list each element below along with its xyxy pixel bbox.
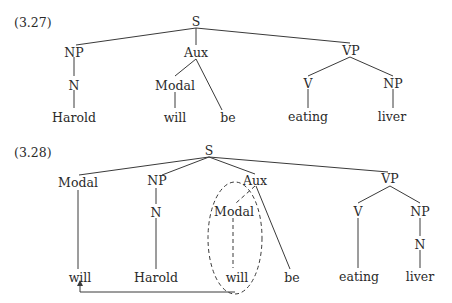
node-VP: VP: [341, 43, 359, 58]
node-S: S: [205, 143, 214, 158]
example-label-3-27: (3.27): [14, 15, 52, 30]
word-be: be: [284, 270, 299, 285]
tree-3-28: (3.28) S Modal NP Aux VP N Modal: [14, 143, 434, 294]
node-V: V: [302, 76, 313, 91]
word-will-trace: will: [226, 270, 249, 285]
node-VP: VP: [380, 171, 398, 186]
word-liver: liver: [406, 269, 434, 284]
example-label-3-28: (3.28): [14, 145, 52, 160]
node-Aux: Aux: [242, 173, 267, 188]
node-NP-object: NP: [383, 76, 402, 91]
word-be: be: [220, 110, 235, 125]
word-eating: eating: [339, 269, 379, 284]
word-will: will: [164, 110, 187, 125]
syntax-tree-figure: (3.27) S NP Aux VP N Modal V NP Harold w…: [0, 0, 452, 303]
node-Modal-fronted: Modal: [58, 175, 98, 190]
node-Modal: Modal: [155, 78, 195, 93]
node-N-object: N: [415, 237, 426, 252]
node-NP-object: NP: [410, 204, 429, 219]
node-NP: NP: [64, 45, 83, 60]
word-Harold: Harold: [52, 110, 96, 125]
node-Aux: Aux: [183, 45, 208, 60]
movement-arrow: [80, 284, 235, 292]
word-Harold: Harold: [134, 270, 178, 285]
word-liver: liver: [378, 109, 406, 124]
tree-3-27: (3.27) S NP Aux VP N Modal V NP Harold w…: [14, 14, 406, 125]
node-S: S: [192, 14, 201, 29]
node-N: N: [151, 205, 162, 220]
node-N: N: [69, 78, 80, 93]
word-will-fronted: will: [69, 270, 92, 285]
node-NP: NP: [147, 173, 166, 188]
node-Modal-trace: Modal: [214, 204, 254, 219]
node-V: V: [352, 204, 363, 219]
word-eating: eating: [288, 109, 328, 124]
